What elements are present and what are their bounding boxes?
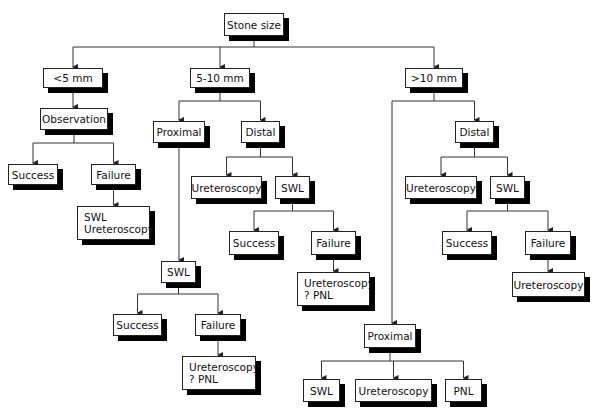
node-uret5: Ureteroscopy — [512, 272, 585, 297]
node-label: SWL — [84, 211, 107, 223]
node-label: Ureteroscopy — [84, 223, 154, 235]
node-fail2: Failure — [311, 231, 356, 255]
node-fail1: Failure — [91, 164, 136, 185]
node-swlu1: SWLUreteroscopy — [77, 206, 150, 240]
node-label: Success — [233, 237, 275, 249]
node-label: SWL — [496, 182, 519, 194]
node-label: Stone size — [227, 19, 281, 31]
node-prox1: Proximal — [153, 121, 205, 143]
node-label: Failure — [531, 237, 566, 249]
node-dist1: Distal — [241, 121, 280, 143]
node-label: SWL — [310, 385, 333, 397]
node-swl3: SWL — [161, 261, 196, 283]
node-succ3: Success — [113, 314, 162, 336]
node-label: Proximal — [367, 330, 412, 342]
node-label: Ureteroscopy — [359, 385, 429, 397]
node-uret2: Ureteroscopy — [191, 176, 262, 199]
node-label: Ureteroscopy — [406, 182, 476, 194]
node-label: Observation — [42, 113, 106, 125]
node-succ2: Success — [229, 231, 279, 255]
node-label: Ureteroscopy — [304, 277, 374, 289]
node-label: Failure — [96, 169, 131, 181]
node-label: Success — [446, 237, 488, 249]
stone-treatment-flowchart: Stone size<5 mm5-10 mm>10 mmObservationS… — [0, 0, 596, 411]
node-fail3: Failure — [195, 314, 241, 336]
node-label: Failure — [316, 237, 351, 249]
node-label: 5-10 mm — [196, 72, 244, 84]
node-label: Ureteroscopy — [514, 279, 584, 291]
node-label: SWL — [167, 266, 190, 278]
node-m510: 5-10 mm — [190, 68, 250, 88]
node-upnl2: Ureteroscopy? PNL — [297, 272, 370, 306]
node-lt5: <5 mm — [43, 68, 103, 88]
node-label: SWL — [281, 182, 304, 194]
node-gt10: >10 mm — [405, 68, 463, 88]
node-label: PNL — [453, 385, 473, 397]
node-label: <5 mm — [53, 72, 92, 84]
node-swl6: SWL — [303, 379, 340, 402]
node-label: Proximal — [156, 126, 201, 138]
node-pnl6: PNL — [445, 379, 482, 402]
node-succ1: Success — [8, 164, 58, 185]
node-label: ? PNL — [304, 289, 333, 301]
node-label: Ureteroscopy — [189, 361, 259, 373]
node-label: Failure — [201, 319, 236, 331]
node-swl4: SWL — [490, 176, 525, 199]
node-label: Distal — [246, 126, 276, 138]
node-swl2: SWL — [275, 176, 310, 199]
node-label: Distal — [460, 126, 490, 138]
node-prox5: Proximal — [364, 324, 416, 348]
node-label: ? PNL — [189, 373, 218, 385]
node-succ4: Success — [442, 231, 492, 255]
node-label: >10 mm — [411, 72, 457, 84]
node-label: Success — [116, 319, 158, 331]
node-upnl3: Ureteroscopy? PNL — [182, 356, 256, 390]
node-dist4: Distal — [455, 121, 494, 143]
node-fail4: Failure — [525, 231, 571, 255]
node-label: Ureteroscopy — [192, 182, 262, 194]
node-root: Stone size — [224, 13, 284, 36]
node-uret6: Ureteroscopy — [355, 379, 432, 402]
node-uret4: Ureteroscopy — [405, 176, 477, 199]
node-label: Success — [12, 169, 54, 181]
node-obs: Observation — [40, 108, 108, 130]
